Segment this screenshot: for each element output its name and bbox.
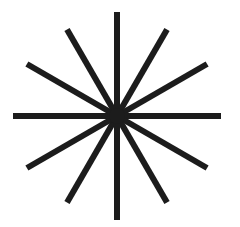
starburst-canvas (0, 0, 240, 227)
starburst-icon (0, 0, 240, 227)
starburst-hub (109, 108, 125, 124)
